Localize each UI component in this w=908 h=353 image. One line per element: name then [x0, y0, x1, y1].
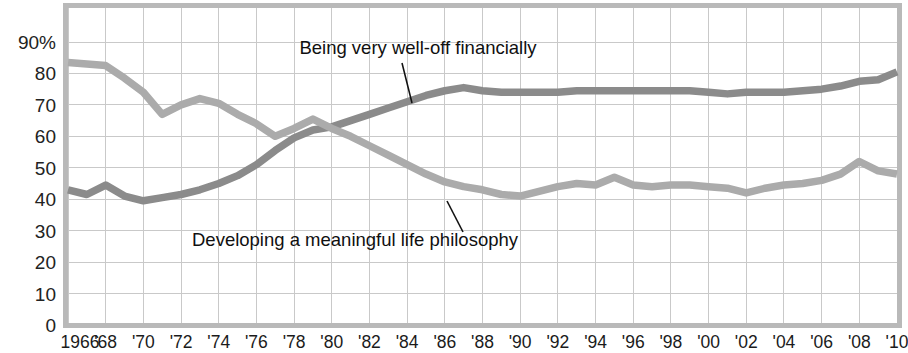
x-tick-label: '70	[132, 332, 155, 352]
x-tick-label: '84	[396, 332, 419, 352]
line-chart: 90%80706050403020100 1966'68'70'72'74'76…	[0, 0, 908, 353]
x-tick-label: '88	[471, 332, 494, 352]
x-tick-label: '90	[509, 332, 532, 352]
y-tick-label: 40	[35, 189, 56, 210]
x-tick-label: '80	[320, 332, 343, 352]
x-tick-label: '68	[94, 332, 117, 352]
y-tick-label: 60	[35, 126, 56, 147]
y-tick-label: 20	[35, 252, 56, 273]
annotation-well-off-label: Being very well-off financially	[299, 37, 537, 58]
x-tick-label: '10	[886, 332, 908, 352]
x-tick-label: '72	[170, 332, 193, 352]
y-tick-label: 0	[45, 315, 56, 336]
x-tick-label: '00	[697, 332, 720, 352]
x-tick-label: '02	[735, 332, 758, 352]
x-tick-label: '04	[773, 332, 796, 352]
y-tick-label: 50	[35, 158, 56, 179]
chart-container: 90%80706050403020100 1966'68'70'72'74'76…	[0, 0, 908, 353]
x-tick-label: '74	[207, 332, 230, 352]
x-tick-label: '82	[358, 332, 381, 352]
x-tick-label: '92	[546, 332, 569, 352]
y-tick-label: 30	[35, 221, 56, 242]
y-tick-label: 80	[35, 63, 56, 84]
x-tick-label: '08	[848, 332, 871, 352]
x-tick-label: '78	[283, 332, 306, 352]
y-tick-label: 70	[35, 95, 56, 116]
x-tick-label: '06	[810, 332, 833, 352]
x-axis-tick-labels: 1966'68'70'72'74'76'78'80'82'84'86'88'90…	[61, 332, 908, 352]
y-tick-label: 90%	[18, 32, 56, 53]
x-tick-label: '94	[584, 332, 607, 352]
x-tick-label: '96	[622, 332, 645, 352]
x-tick-label: '76	[245, 332, 268, 352]
y-tick-label: 10	[35, 284, 56, 305]
x-tick-label: '98	[660, 332, 683, 352]
x-tick-label: '86	[433, 332, 456, 352]
annotation-philosophy-label: Developing a meaningful life philosophy	[192, 229, 519, 250]
